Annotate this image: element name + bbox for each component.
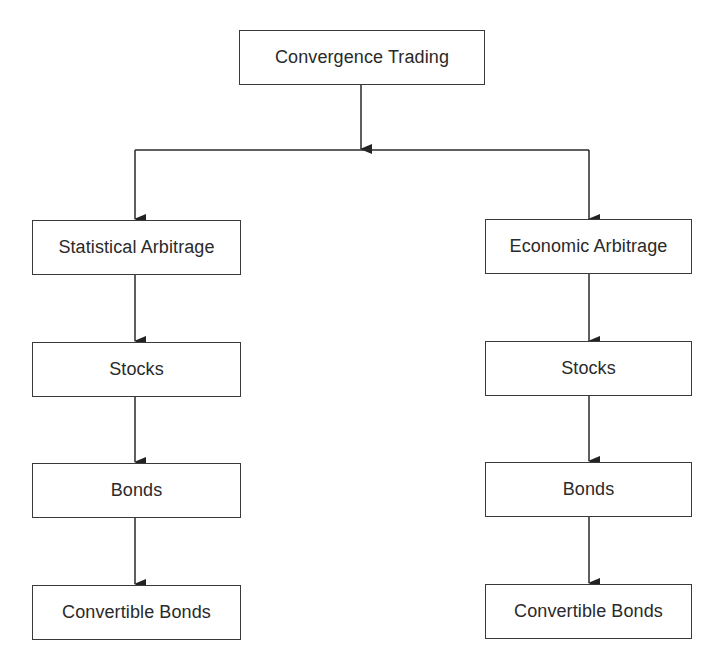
node-statistical-arbitrage: Statistical Arbitrage [32, 220, 241, 275]
node-statistical-convertible-bonds: Convertible Bonds [32, 585, 241, 640]
node-economic-convertible-bonds: Convertible Bonds [485, 584, 692, 639]
node-statistical-stocks: Stocks [32, 342, 241, 397]
node-economic-arbitrage: Economic Arbitrage [485, 219, 692, 274]
node-label: Bonds [563, 479, 615, 500]
node-label: Bonds [111, 480, 163, 501]
node-economic-bonds: Bonds [485, 462, 692, 517]
node-label: Convertible Bonds [514, 601, 663, 622]
node-statistical-bonds: Bonds [32, 463, 241, 518]
node-label: Stocks [109, 359, 164, 380]
node-convergence-trading: Convergence Trading [239, 30, 485, 85]
node-economic-stocks: Stocks [485, 341, 692, 396]
node-label: Statistical Arbitrage [58, 237, 214, 258]
node-label: Convertible Bonds [62, 602, 211, 623]
node-label: Economic Arbitrage [510, 236, 668, 257]
node-label: Convergence Trading [275, 47, 449, 68]
node-label: Stocks [561, 358, 616, 379]
connectors [0, 0, 718, 665]
